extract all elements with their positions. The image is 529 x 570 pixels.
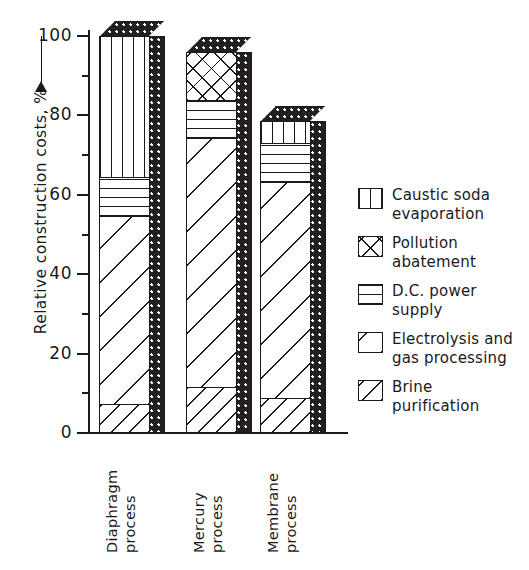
legend-label-caustic-soda-evaporation: Caustic soda evaporation bbox=[392, 186, 490, 223]
segment-mercury-dc-power[interactable] bbox=[186, 100, 237, 139]
y-tick-100 bbox=[77, 35, 90, 37]
legend: Caustic soda evaporation Pollution abate… bbox=[358, 186, 529, 426]
y-tick-60 bbox=[77, 194, 90, 196]
y-tick-minor-90 bbox=[82, 75, 90, 77]
y-tick-label-100: 100 bbox=[20, 25, 72, 45]
bar-diaphragm-side-face bbox=[148, 36, 165, 433]
segment-membrane-caustic-soda[interactable] bbox=[260, 121, 311, 144]
legend-label-line1: Brine bbox=[392, 378, 432, 396]
legend-label-dc-power-supply: D.C. power supply bbox=[392, 282, 477, 319]
segment-diaphragm-caustic-soda[interactable] bbox=[99, 36, 150, 178]
legend-label-line1: Caustic soda bbox=[392, 186, 490, 204]
legend-label-pollution-abatement: Pollution abatement bbox=[392, 234, 476, 271]
legend-item-electrolysis-and-gas-processing[interactable]: Electrolysis and gas processing bbox=[358, 330, 529, 367]
segment-membrane-electrolysis[interactable] bbox=[260, 182, 311, 399]
segment-mercury-pollution-abatement[interactable] bbox=[186, 52, 237, 101]
legend-label-electrolysis-and-gas-processing: Electrolysis and gas processing bbox=[392, 330, 513, 367]
legend-label-line2: evaporation bbox=[392, 205, 484, 223]
legend-label-line1: D.C. power bbox=[392, 282, 477, 300]
legend-item-pollution-abatement[interactable]: Pollution abatement bbox=[358, 234, 529, 271]
legend-item-brine-purification[interactable]: Brine purification bbox=[358, 378, 529, 415]
category-label-mercury-line1: Mercury bbox=[191, 492, 208, 553]
y-tick-minor-50 bbox=[82, 234, 90, 236]
segment-mercury-brine-purification[interactable] bbox=[186, 387, 237, 433]
legend-swatch-wide-diagonal-icon bbox=[358, 332, 383, 353]
segment-membrane-dc-power[interactable] bbox=[260, 143, 311, 183]
legend-label-brine-purification: Brine purification bbox=[392, 378, 479, 415]
legend-label-line2: abatement bbox=[392, 253, 476, 271]
y-tick-20 bbox=[77, 353, 90, 355]
y-tick-minor-70 bbox=[82, 154, 90, 156]
bar-membrane-top-face bbox=[260, 106, 325, 122]
y-axis-line bbox=[88, 30, 90, 434]
segment-membrane-brine-purification[interactable] bbox=[260, 398, 311, 433]
legend-swatch-cross-hatch-icon bbox=[358, 236, 383, 257]
y-tick-80 bbox=[77, 114, 90, 116]
bar-diaphragm-top-face bbox=[99, 21, 164, 37]
y-axis-title-text: Relative construction costs, % bbox=[32, 89, 50, 335]
segment-diaphragm-dc-power[interactable] bbox=[99, 177, 150, 217]
legend-swatch-horizontal-lines-icon bbox=[358, 284, 383, 305]
bar-mercury-side-face bbox=[235, 52, 252, 433]
category-label-diaphragm-line2: process bbox=[122, 495, 139, 553]
stacked-bar-chart: 100 80 60 40 20 0 Relative construction … bbox=[0, 0, 529, 570]
segment-mercury-electrolysis[interactable] bbox=[186, 138, 237, 388]
legend-swatch-tight-diagonal-icon bbox=[358, 380, 383, 401]
legend-label-line1: Electrolysis and bbox=[392, 330, 513, 348]
legend-item-dc-power-supply[interactable]: D.C. power supply bbox=[358, 282, 529, 319]
legend-label-line2: gas processing bbox=[392, 349, 507, 367]
y-tick-minor-10 bbox=[82, 392, 90, 394]
segment-diaphragm-brine-purification[interactable] bbox=[99, 404, 150, 433]
category-label-membrane-line2: process bbox=[283, 495, 300, 553]
y-tick-40 bbox=[77, 273, 90, 275]
bar-membrane-side-face bbox=[309, 121, 326, 433]
legend-label-line1: Pollution bbox=[392, 234, 458, 252]
segment-diaphragm-electrolysis[interactable] bbox=[99, 216, 150, 405]
legend-item-caustic-soda-evaporation[interactable]: Caustic soda evaporation bbox=[358, 186, 529, 223]
legend-swatch-vertical-lines-icon bbox=[358, 188, 383, 209]
y-tick-minor-30 bbox=[82, 313, 90, 315]
category-label-diaphragm-line1: Diaphragm bbox=[104, 470, 121, 553]
legend-label-line2: supply bbox=[392, 301, 443, 319]
bar-mercury-top-face bbox=[186, 37, 251, 53]
y-tick-label-20: 20 bbox=[20, 343, 72, 363]
y-tick-label-0: 0 bbox=[20, 422, 72, 442]
category-label-mercury-line2: process bbox=[209, 495, 226, 553]
y-axis-title: Relative construction costs, % bbox=[29, 83, 53, 333]
category-label-membrane-line1: Membrane bbox=[265, 473, 282, 553]
legend-label-line2: purification bbox=[392, 397, 479, 415]
